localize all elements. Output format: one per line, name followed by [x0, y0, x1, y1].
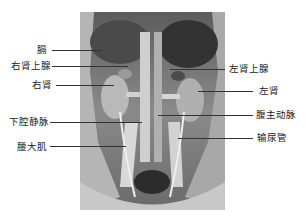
label-ureter: 输尿管	[257, 132, 287, 143]
label-right-kidney: 右肾	[32, 79, 52, 90]
label-aorta: 腹主动脉	[256, 109, 296, 120]
dissection-photo	[80, 12, 225, 210]
label-left-kidney: 左肾	[259, 85, 279, 96]
leader-right-kidney	[56, 85, 114, 86]
leader-ivc	[50, 122, 142, 123]
leader-left-adrenal	[170, 69, 225, 70]
leader-left-kidney	[198, 91, 253, 92]
label-ivc: 下腔静脉	[9, 116, 49, 127]
leader-right-adrenal	[52, 66, 128, 67]
leader-ureter	[178, 138, 253, 139]
leader-diaphragm	[52, 50, 102, 51]
label-left-adrenal: 左肾上腺	[229, 63, 269, 74]
leader-psoas-major	[50, 146, 126, 147]
label-right-adrenal: 右肾上腺	[11, 60, 51, 71]
anatomy-figure: 膈 右肾上腺 右肾 下腔静脉 腰大肌 左肾上腺 左肾 腹主动脉 输尿管	[0, 0, 305, 224]
label-psoas-major: 腰大肌	[17, 141, 47, 152]
dissection-photo-illustration	[80, 12, 225, 210]
label-diaphragm: 膈	[37, 44, 47, 55]
leader-aorta	[158, 115, 253, 116]
